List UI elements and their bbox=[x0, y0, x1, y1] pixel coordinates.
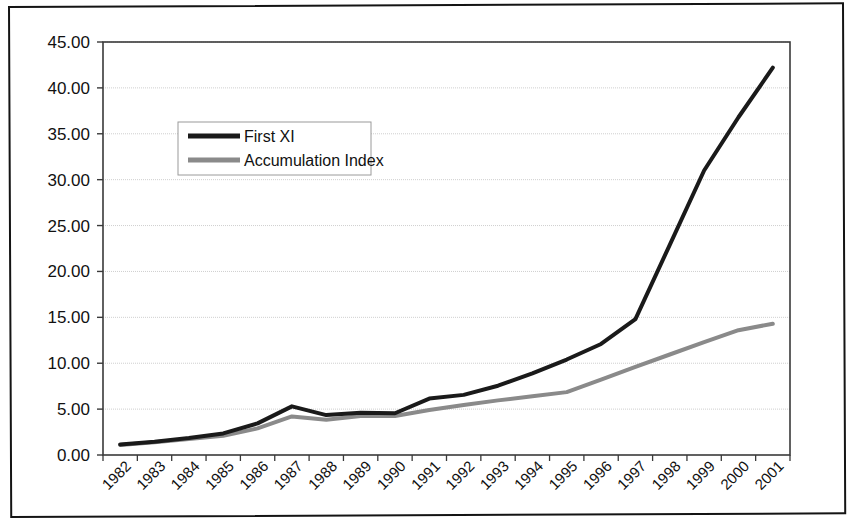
chart-canvas: 0.005.0010.0015.0020.0025.0030.0035.0040… bbox=[0, 0, 857, 532]
x-tick-label: 1990 bbox=[373, 457, 409, 493]
x-tick-label: 1984 bbox=[167, 457, 203, 493]
y-tick-label: 25.00 bbox=[47, 217, 90, 236]
x-tick-label: 1991 bbox=[408, 457, 444, 493]
chart-legend: First XIAccumulation Index bbox=[178, 122, 384, 175]
y-tick-label: 10.00 bbox=[47, 354, 90, 373]
y-tick-label: 30.00 bbox=[47, 171, 90, 190]
x-tick-label: 1988 bbox=[305, 457, 341, 493]
x-tick-label: 1985 bbox=[202, 457, 238, 493]
x-tick-label: 1983 bbox=[133, 457, 169, 493]
x-tick-label: 2001 bbox=[751, 457, 787, 493]
x-tick-label: 2000 bbox=[717, 457, 753, 493]
y-tick-label: 0.00 bbox=[57, 446, 90, 465]
x-tick-label: 1999 bbox=[682, 457, 718, 493]
y-tick-label: 5.00 bbox=[57, 400, 90, 419]
y-axis-tick-marks bbox=[97, 42, 103, 455]
x-tick-label: 1992 bbox=[442, 457, 478, 493]
x-tick-label: 1982 bbox=[98, 457, 134, 493]
chart-screenshot: 0.005.0010.0015.0020.0025.0030.0035.0040… bbox=[0, 0, 857, 532]
y-tick-label: 45.00 bbox=[47, 33, 90, 52]
legend-label: First XI bbox=[244, 128, 295, 145]
x-tick-label: 1987 bbox=[270, 457, 306, 493]
x-tick-label: 1996 bbox=[579, 457, 615, 493]
y-tick-label: 20.00 bbox=[47, 262, 90, 281]
x-tick-label: 1986 bbox=[236, 457, 272, 493]
x-tick-label: 1989 bbox=[339, 457, 375, 493]
x-tick-label: 1994 bbox=[511, 457, 547, 493]
x-axis-tick-marks bbox=[103, 455, 790, 461]
x-tick-label: 1997 bbox=[614, 457, 650, 493]
x-axis-tick-labels: 1982198319841985198619871988198919901991… bbox=[98, 457, 786, 493]
y-axis-tick-labels: 0.005.0010.0015.0020.0025.0030.0035.0040… bbox=[47, 33, 90, 465]
x-tick-label: 1995 bbox=[545, 457, 581, 493]
y-tick-label: 35.00 bbox=[47, 125, 90, 144]
x-tick-label: 1993 bbox=[476, 457, 512, 493]
y-tick-label: 40.00 bbox=[47, 79, 90, 98]
x-tick-label: 1998 bbox=[648, 457, 684, 493]
plot-area bbox=[103, 42, 790, 455]
line-chart: 0.005.0010.0015.0020.0025.0030.0035.0040… bbox=[0, 0, 857, 532]
y-tick-label: 15.00 bbox=[47, 308, 90, 327]
legend-label: Accumulation Index bbox=[244, 152, 384, 169]
